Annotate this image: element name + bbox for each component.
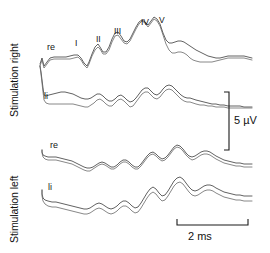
trace-stim-right-li-b: [40, 66, 252, 108]
panel-label-stimulation-left: Stimulation left: [8, 176, 20, 243]
trace-stim-right-li-a: [40, 66, 252, 107]
panel-label-stimulation-right: Stimulation right: [8, 43, 20, 117]
trace-label-stim-right-re: re: [47, 42, 55, 52]
trace-label-stim-right-li: li: [44, 91, 48, 101]
peak-label-IV: IV: [141, 17, 149, 27]
waveform-plot-area: [0, 0, 270, 253]
amplitude-scale-bar: [224, 92, 229, 150]
trace-stim-left-re-b: [42, 147, 252, 171]
trace-stim-left-li-b: [42, 182, 252, 214]
trace-label-stim-left-li: li: [48, 182, 52, 192]
peak-label-V: V: [159, 15, 165, 25]
peak-label-I: I: [75, 38, 77, 48]
trace-stim-left-li-a: [42, 177, 252, 209]
peak-label-III: III: [114, 26, 121, 36]
amplitude-scale-label: 5 µV: [234, 114, 257, 126]
time-scale-label: 2 ms: [188, 230, 212, 242]
peak-label-II: II: [96, 34, 101, 44]
trace-label-stim-left-re: re: [50, 140, 58, 150]
trace-group-stim-left: [42, 145, 252, 214]
baep-figure: Stimulation right Stimulation left re li…: [0, 0, 270, 253]
time-scale-bar: [177, 219, 248, 225]
trace-group-stim-right: [40, 17, 252, 108]
